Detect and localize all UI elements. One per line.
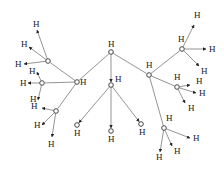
node-c1 [75,123,80,128]
node-c2 [109,129,114,134]
leaf-bond [24,61,46,64]
hydrogen-label: H [199,88,206,98]
leaf-bond [184,51,199,66]
hydrogen-label: H [34,120,41,130]
molecule-tree-diagram: HHHHHHHHHHHHHHHHHH HHHHHHHHHH [0,0,224,170]
bond-right_hub-ur [151,51,180,74]
leaf-bond [183,25,194,47]
leaf-bond [178,89,185,103]
hydrogen-label: H [188,103,195,113]
diagram-canvas: HHHHHHHHHHHHHHHHHH HHHHHHHHHH [0,0,224,170]
bond-left_hub-ml [45,82,75,83]
leaf-bond [165,130,172,146]
node-label: H [178,34,185,44]
hydrogen-label: H [201,66,208,76]
node-ul [46,59,51,64]
node-ll [54,109,59,114]
hydrogen-label: H [20,78,27,88]
node-center_hub [109,83,114,88]
edges [45,51,180,128]
hydrogen-label: H [156,152,163,162]
hydrogen-label: H [193,133,200,143]
hydrogen-label: H [209,44,216,54]
leaf-bond [179,85,190,87]
leaf-bond [42,108,54,110]
node-ml [40,81,45,86]
bond-left_hub-ll [58,84,76,109]
node-label: H [115,74,122,84]
leaf-bond [166,129,190,138]
node-label: H [166,113,173,123]
node-label: H [174,72,181,82]
node-label: H [108,39,115,49]
leaf-bond [38,85,41,100]
hydrogen-label: H [29,66,36,76]
node-c3 [139,122,144,127]
bond-right_hub-lr [150,77,164,125]
hydrogen-label: H [48,139,55,149]
node-label: H [80,77,87,87]
bond-center_hub-c1 [79,87,109,123]
hydrogen-label: H [196,76,203,86]
node-ur [180,47,185,52]
leaf-bond [52,113,56,137]
leaf-bond [42,113,54,125]
nodes: HHHHHHHHHH [40,34,185,144]
leaf-bond [37,72,41,81]
node-lr [162,126,167,131]
node-label: H [146,60,153,70]
bond-left_hub-ul [50,63,75,81]
node-right_hub [147,73,152,78]
leaf-bond [160,130,164,152]
bond-root-right_hub [113,53,146,73]
node-label: H [74,128,81,138]
bond-right_hub-mr [151,76,174,86]
hydrogen-label: H [15,59,22,69]
node-root [109,50,114,55]
bond-center_hub-c3 [113,87,140,122]
hydrogen-label: H [31,101,38,111]
hydrogen-label: H [194,10,201,20]
node-mr [175,85,180,90]
hydrogen-label: H [174,146,181,156]
leaf-bonds: HHHHHHHHHHHHHHHHHH [15,10,216,162]
hydrogen-label: H [21,39,28,49]
leaf-bond [179,88,196,93]
node-label: H [108,134,115,144]
hydrogen-label: H [33,19,40,29]
node-left_hub [75,80,80,85]
node-label: H [139,127,146,137]
